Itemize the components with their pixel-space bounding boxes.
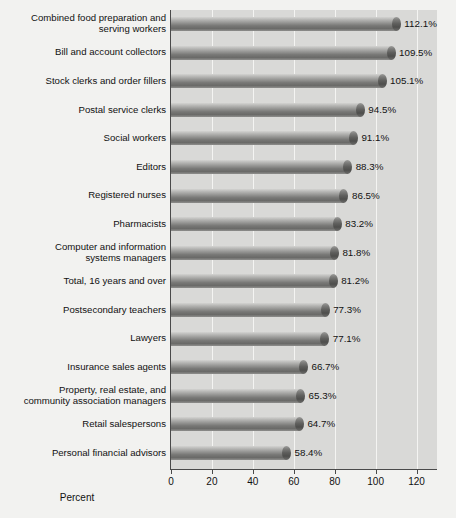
x-tick-label: 80 xyxy=(329,476,340,488)
bar-value-label: 88.3% xyxy=(356,160,384,174)
x-tick xyxy=(253,469,254,474)
bar-chart: Combined food preparation and serving wo… xyxy=(0,0,456,518)
bar-body xyxy=(171,360,303,374)
category-label: Editors xyxy=(0,161,166,173)
bar-end-cap xyxy=(295,417,304,431)
x-tick xyxy=(417,469,418,474)
x-axis-title: Percent xyxy=(0,492,456,503)
bar xyxy=(171,389,305,403)
bar-value-label: 91.1% xyxy=(361,131,389,145)
category-label: Retail salespersons xyxy=(0,418,166,430)
category-label: Total, 16 years and over xyxy=(0,275,166,287)
bar xyxy=(171,332,329,346)
bar xyxy=(171,360,307,374)
bar xyxy=(171,246,338,260)
x-tick xyxy=(294,469,295,474)
bar-end-cap xyxy=(299,360,308,374)
category-label: Combined food preparation and serving wo… xyxy=(0,12,166,35)
bar-end-cap xyxy=(321,303,330,317)
bar-body xyxy=(171,103,360,117)
bar-value-label: 105.1% xyxy=(390,74,423,88)
bar-value-label: 77.3% xyxy=(333,303,361,317)
bar-body xyxy=(171,74,382,88)
bar-end-cap xyxy=(282,446,291,460)
x-tick-label: 0 xyxy=(168,476,174,488)
bar-value-label: 65.3% xyxy=(309,389,337,403)
bar-body xyxy=(171,46,391,60)
bar-body xyxy=(171,246,334,260)
bar-end-cap xyxy=(339,189,348,203)
x-tick-label: 60 xyxy=(288,476,299,488)
bar xyxy=(171,131,357,145)
x-tick-label: 40 xyxy=(247,476,258,488)
bar-end-cap xyxy=(329,274,338,288)
bar-end-cap xyxy=(356,103,365,117)
category-label: Postal service clerks xyxy=(0,104,166,116)
bar-end-cap xyxy=(343,160,352,174)
bar-value-label: 77.1% xyxy=(333,332,361,346)
category-label: Social workers xyxy=(0,132,166,144)
category-label: Insurance sales agents xyxy=(0,361,166,373)
bar-body xyxy=(171,160,348,174)
bar-body xyxy=(171,189,344,203)
bar-value-label: 66.7% xyxy=(311,360,339,374)
bar xyxy=(171,103,364,117)
bar xyxy=(171,160,352,174)
bar-end-cap xyxy=(320,332,329,346)
bar-body xyxy=(171,131,353,145)
category-label: Pharmacists xyxy=(0,218,166,230)
bar-end-cap xyxy=(330,246,339,260)
x-tick xyxy=(212,469,213,474)
category-label: Postsecondary teachers xyxy=(0,304,166,316)
bar-end-cap xyxy=(349,131,358,145)
bar-value-label: 94.5% xyxy=(368,103,396,117)
bar-value-label: 112.1% xyxy=(404,17,437,31)
category-label: Stock clerks and order fillers xyxy=(0,75,166,87)
bar-value-label: 109.5% xyxy=(399,46,432,60)
bar-body xyxy=(171,217,337,231)
bar xyxy=(171,217,341,231)
bar-value-label: 64.7% xyxy=(307,417,335,431)
bar xyxy=(171,274,337,288)
bar-body xyxy=(171,303,325,317)
bar-body xyxy=(171,446,286,460)
bar xyxy=(171,303,329,317)
bar-rows: Combined food preparation and serving wo… xyxy=(0,0,456,518)
category-label: Computer and information systems manager… xyxy=(0,241,166,264)
bar-end-cap xyxy=(392,17,401,31)
bar-value-label: 58.4% xyxy=(294,446,322,460)
x-tick-label: 20 xyxy=(206,476,217,488)
category-label: Lawyers xyxy=(0,332,166,344)
bar-end-cap xyxy=(387,46,396,60)
bar-value-label: 81.8% xyxy=(342,246,370,260)
category-label: Property, real estate, and community ass… xyxy=(0,384,166,407)
bar-body xyxy=(171,332,325,346)
x-tick-label: 100 xyxy=(367,476,384,488)
bar-value-label: 83.2% xyxy=(345,217,373,231)
bar xyxy=(171,417,303,431)
bar-value-label: 81.2% xyxy=(341,274,369,288)
bar xyxy=(171,46,395,60)
bar-body xyxy=(171,274,333,288)
bar-end-cap xyxy=(333,217,342,231)
x-tick xyxy=(335,469,336,474)
category-label: Registered nurses xyxy=(0,189,166,201)
category-label: Bill and account collectors xyxy=(0,46,166,58)
bar-end-cap xyxy=(296,389,305,403)
x-tick xyxy=(376,469,377,474)
bar-end-cap xyxy=(378,74,387,88)
bar-body xyxy=(171,417,299,431)
bar xyxy=(171,17,400,31)
bar-value-label: 86.5% xyxy=(352,189,380,203)
bar xyxy=(171,446,290,460)
bar xyxy=(171,189,348,203)
x-tick-label: 120 xyxy=(408,476,425,488)
x-axis-title-text: Percent xyxy=(60,492,94,503)
x-tick xyxy=(171,469,172,474)
bar-body xyxy=(171,17,396,31)
category-label: Personal financial advisors xyxy=(0,447,166,459)
bar-body xyxy=(171,389,301,403)
bar xyxy=(171,74,386,88)
